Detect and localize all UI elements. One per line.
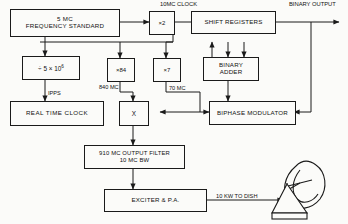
clock-line2: CLOCK (177, 1, 197, 7)
kw-to-dish-text: 10 KW TO DISH (216, 193, 258, 199)
clock-line1: 10MC (160, 1, 175, 7)
output-filter-line2: 10 MC BW (120, 157, 150, 164)
mc840-text: 840 MC (99, 84, 119, 90)
multiplier-x2-label: ×2 (159, 20, 166, 27)
multiplier-x7-label: ×7 (164, 67, 171, 74)
frequency-standard-line2: FREQUENCY STANDARD (26, 23, 105, 30)
block-output-filter: 910 MC OUTPUT FILTER 10 MC BW (84, 145, 185, 169)
binary-output-line1: BINARY (289, 1, 310, 7)
shift-registers-label: SHIFT REGISTERS (204, 19, 262, 26)
mixer-label: X (132, 110, 136, 117)
dish-reflector-inner (293, 170, 318, 202)
dish-base (272, 213, 307, 219)
block-multiplier-x84: ×84 (107, 58, 135, 82)
block-binary-adder: BINARY ADDER (203, 57, 259, 81)
binary-adder-line2: ADDER (220, 69, 243, 76)
block-diagram: 5 MC FREQUENCY STANDARD ÷ 5 × 106 REAL T… (0, 0, 348, 224)
label-10kw-to-dish: 10 KW TO DISH (216, 193, 258, 199)
dish-pedestal (272, 184, 307, 213)
ipps-text: IPPS (48, 90, 61, 96)
block-biphase-modulator: BIPHASE MODULATOR (209, 101, 296, 125)
label-ipps: IPPS (48, 90, 61, 96)
block-multiplier-x2: ×2 (149, 11, 175, 35)
block-frequency-standard: 5 MC FREQUENCY STANDARD (10, 9, 120, 37)
divider-label: ÷ 5 × 106 (38, 64, 64, 72)
label-840mc: 840 MC (99, 84, 119, 90)
block-real-time-clock: REAL TIME CLOCK (10, 101, 104, 126)
label-70mc: 70 MC (169, 85, 185, 91)
real-time-clock-label: REAL TIME CLOCK (26, 110, 88, 117)
block-shift-registers: SHIFT REGISTERS (191, 11, 276, 34)
block-divider: ÷ 5 × 106 (22, 56, 80, 80)
biphase-modulator-label: BIPHASE MODULATOR (217, 110, 288, 117)
block-exciter-pa: EXCITER & P.A. (104, 189, 207, 212)
divider-exponent: 6 (61, 64, 64, 69)
multiplier-x84-label: ×84 (116, 67, 126, 74)
output-filter-line1: 910 MC OUTPUT FILTER (99, 150, 170, 157)
block-multiplier-x7: ×7 (153, 58, 181, 82)
binary-output-line2: OUTPUT (312, 1, 336, 7)
exciter-pa-label: EXCITER & P.A. (131, 197, 179, 204)
label-10mc-clock: 10MC CLOCK (160, 1, 196, 7)
label-binary-output: BINARY OUTPUT (289, 1, 333, 7)
mc70-text: 70 MC (169, 85, 185, 91)
block-mixer: X (119, 101, 149, 126)
